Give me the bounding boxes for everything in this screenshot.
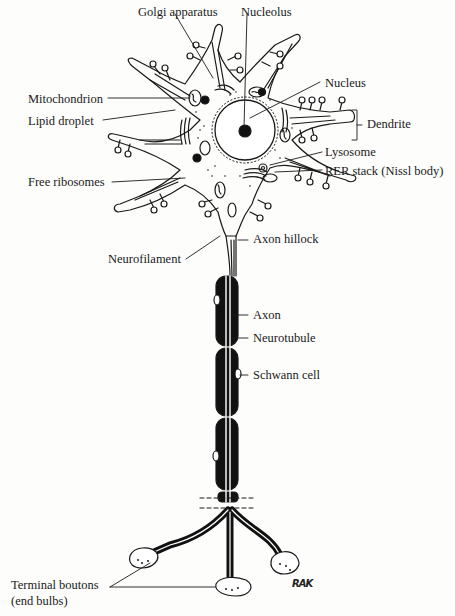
label-free-ribosomes: Free ribosomes [28, 175, 105, 189]
label-lipid-droplet: Lipid droplet [28, 114, 94, 128]
myelin-sheath [213, 276, 241, 502]
label-mitochondrion: Mitochondrion [28, 92, 103, 106]
label-nucleolus: Nucleolus [241, 5, 292, 19]
label-dendrite: Dendrite [367, 117, 411, 131]
label-rer-stack: RER stack (Nissl body) [325, 164, 443, 178]
label-neurotubule: Neurotubule [253, 331, 315, 345]
label-golgi-apparatus: Golgi apparatus [138, 5, 218, 19]
artist-signature: RAK [292, 578, 312, 589]
axon-terminals [130, 510, 299, 596]
label-schwann-cell: Schwann cell [253, 368, 320, 382]
label-lysosome: Lysosome [325, 145, 376, 159]
label-nucleus: Nucleus [325, 76, 366, 90]
label-axon-hillock: Axon hillock [253, 232, 319, 246]
label-terminal-boutons: Terminal boutons [11, 578, 99, 592]
neuron-diagram: Golgi apparatus Nucleolus Nucleus Mitoch… [0, 0, 455, 616]
label-end-bulbs: (end bulbs) [11, 594, 68, 608]
label-axon: Axon [253, 308, 281, 322]
nucleolus-shape [239, 125, 251, 137]
label-neurofilament: Neurofilament [108, 252, 181, 266]
